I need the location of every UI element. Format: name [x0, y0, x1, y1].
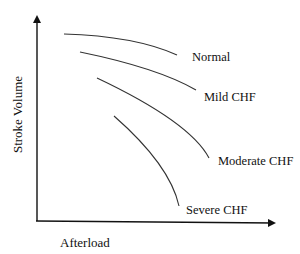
label-moderate-chf: Moderate CHF [218, 155, 293, 168]
x-axis-label: Afterload [60, 236, 110, 249]
chart-canvas [0, 0, 300, 254]
y-axis-label: Stroke Volume [11, 60, 24, 170]
curve-severe-chf [114, 116, 179, 206]
curve-mild-chf [80, 52, 196, 90]
x-axis [36, 221, 274, 223]
curve-moderate-chf [97, 78, 209, 158]
label-mild-chf: Mild CHF [204, 91, 256, 104]
label-normal: Normal [192, 51, 230, 64]
label-severe-chf: Severe CHF [186, 204, 247, 217]
